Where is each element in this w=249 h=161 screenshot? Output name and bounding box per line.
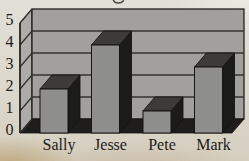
bar-mark bbox=[195, 67, 223, 133]
bar-side-jesse bbox=[120, 31, 132, 133]
y-axis-tick-label-0: 0 bbox=[6, 121, 14, 138]
scanned-3d-bar-chart-page: 012345SallyJessePeteMark bbox=[0, 0, 249, 161]
y-axis-tick-label-5: 5 bbox=[6, 11, 14, 28]
bar-jesse bbox=[92, 45, 120, 133]
x-axis-category-label-mark: Mark bbox=[196, 136, 231, 153]
chart-left-wall bbox=[20, 9, 32, 133]
y-axis-tick-label-2: 2 bbox=[6, 77, 14, 94]
bar-chart-svg: 012345SallyJessePeteMark bbox=[0, 0, 249, 161]
y-axis-tick-label-3: 3 bbox=[6, 55, 14, 72]
bar-sally bbox=[40, 89, 68, 133]
x-axis-category-label-jesse: Jesse bbox=[94, 136, 127, 153]
x-axis-category-label-pete: Pete bbox=[148, 136, 176, 153]
bar-pete bbox=[143, 111, 171, 133]
cropped-title-fragment-g bbox=[114, 1, 124, 4]
x-axis-category-label-sally: Sally bbox=[43, 136, 76, 154]
y-axis-tick-label-4: 4 bbox=[6, 33, 14, 50]
y-axis-tick-label-1: 1 bbox=[6, 99, 14, 116]
